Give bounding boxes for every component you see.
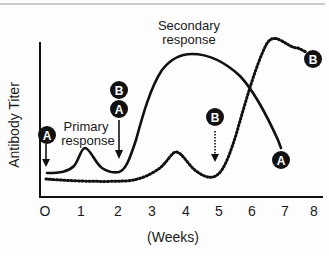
x-tick-0: O [40, 203, 51, 219]
y-axis-label: Antibody Titer [6, 82, 22, 168]
antigen-b-curve [46, 38, 306, 181]
x-tick-8: 8 [310, 203, 318, 219]
injection-arrow-ab-week2 [115, 120, 123, 159]
svg-text:A: A [43, 129, 52, 143]
svg-text:A: A [277, 154, 286, 168]
svg-text:A: A [115, 103, 124, 117]
injection-arrow-b-week5 [211, 131, 219, 162]
x-tick-3: 3 [148, 203, 156, 219]
x-tick-labels: O 1 2 3 4 5 6 7 8 [40, 203, 319, 219]
badge-a-week0: A [38, 126, 56, 144]
antibody-titer-diagram: Antibody Titer O 1 2 3 4 5 6 7 8 (Weeks)… [0, 0, 329, 256]
badge-a-end: A [272, 151, 290, 169]
x-tick-7: 7 [281, 203, 289, 219]
x-tick-6: 6 [248, 203, 256, 219]
x-tick-4: 4 [182, 203, 190, 219]
x-axis-label: (Weeks) [147, 229, 199, 245]
x-tick-2: 2 [114, 203, 122, 219]
secondary-response-label-line1: Secondary [158, 18, 221, 33]
x-tick-5: 5 [215, 203, 223, 219]
badge-b-end: B [304, 50, 322, 68]
svg-text:B: B [309, 53, 318, 67]
svg-text:B: B [211, 111, 220, 125]
primary-response-label-line1: Primary [64, 119, 109, 134]
badge-b-week2: B [110, 81, 128, 99]
primary-response-label-line2: response [61, 133, 114, 148]
badge-b-week5: B [206, 108, 224, 126]
badge-a-week2: A [110, 100, 128, 118]
injection-arrow-a-week0 [42, 144, 50, 167]
antigen-a-curve [47, 54, 281, 173]
svg-text:B: B [115, 84, 124, 98]
secondary-response-label-line2: response [162, 32, 215, 47]
x-tick-1: 1 [77, 203, 85, 219]
